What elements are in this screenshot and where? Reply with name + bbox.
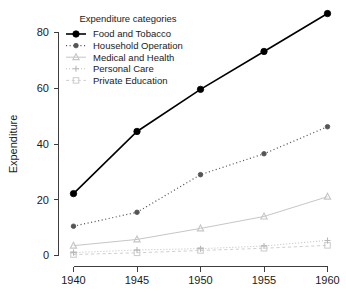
- data-point: [70, 190, 76, 196]
- data-point: [324, 10, 330, 16]
- x-tick-label-1950: 1950: [188, 274, 212, 286]
- legend-item[interactable]: Medical and Health: [66, 52, 174, 63]
- x-tick-label-1940: 1940: [61, 274, 85, 286]
- data-point: [134, 128, 140, 134]
- data-point: [325, 124, 330, 129]
- x-tick-label-1945: 1945: [125, 274, 149, 286]
- series-household-operation: [71, 124, 330, 228]
- legend-item[interactable]: Private Education: [66, 75, 167, 86]
- y-tick-label-20: 20: [37, 194, 49, 206]
- y-axis-ticks: [54, 33, 59, 256]
- legend-item[interactable]: Personal Care: [66, 63, 154, 74]
- series-line: [74, 197, 328, 246]
- legend-title: Expenditure categories: [79, 13, 176, 24]
- legend-key-dotted-circle: [66, 43, 86, 48]
- legend-item[interactable]: Food and Tobacco: [66, 28, 171, 39]
- legend-item-label: Personal Care: [93, 63, 154, 74]
- data-point: [134, 247, 140, 253]
- legend-item-label: Food and Tobacco: [93, 28, 171, 39]
- x-tick-label-1960: 1960: [315, 274, 339, 286]
- x-axis-ticks: [74, 267, 328, 272]
- legend-item-label: Private Education: [93, 75, 167, 86]
- data-point: [261, 48, 267, 54]
- data-point: [197, 86, 203, 92]
- chart-container: 0 20 40 60 80 Expenditure 1940 1945 1950…: [0, 0, 346, 303]
- legend-key-triangle: [66, 54, 86, 60]
- y-axis: 0 20 40 60 80: [37, 26, 59, 261]
- data-point: [198, 172, 203, 177]
- y-tick-label-80: 80: [37, 26, 49, 38]
- data-point: [262, 151, 267, 156]
- y-tick-label-60: 60: [37, 82, 49, 94]
- data-point: [135, 210, 140, 215]
- x-axis: 1940 1945 1950 1955 1960: [61, 267, 339, 287]
- y-tick-label-0: 0: [43, 249, 49, 261]
- data-point: [71, 224, 76, 229]
- y-axis-title: Expenditure: [7, 115, 19, 174]
- legend-key-square: [66, 78, 86, 84]
- legend-item-label: Medical and Health: [93, 52, 174, 63]
- chart-legend: Expenditure categories Food and TobaccoH…: [66, 13, 183, 86]
- data-point: [324, 193, 330, 199]
- legend-key-line-circle: [66, 31, 86, 37]
- legend-items: Food and TobaccoHousehold OperationMedic…: [66, 28, 183, 85]
- legend-key-plus: [66, 66, 86, 72]
- legend-item[interactable]: Household Operation: [66, 40, 183, 51]
- expenditure-line-chart: 0 20 40 60 80 Expenditure 1940 1945 1950…: [0, 0, 346, 303]
- y-tick-label-40: 40: [37, 138, 49, 150]
- legend-item-label: Household Operation: [93, 40, 183, 51]
- series-medical-and-health: [70, 193, 330, 248]
- x-tick-label-1955: 1955: [252, 274, 276, 286]
